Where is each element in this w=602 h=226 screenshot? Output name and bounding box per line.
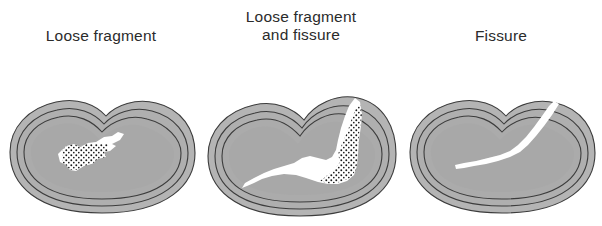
bone-cross-section-loose-fragment <box>0 74 202 222</box>
panel-fissure: Fissure <box>400 0 602 226</box>
bone-cross-section-loose-fragment-and-fissure <box>200 74 402 222</box>
panel-caption-loose-fragment: Loose fragment <box>0 27 202 45</box>
panel-loose-fragment: Loose fragment <box>0 0 202 226</box>
bone-cross-section-fissure <box>400 74 602 222</box>
osteochondral-lesion-figure: Loose fragment <box>0 0 602 226</box>
panel-caption-fissure: Fissure <box>400 27 602 45</box>
panel-loose-fragment-and-fissure: Loose fragment and fissure <box>200 0 402 226</box>
panel-caption-loose-fragment-and-fissure: Loose fragment and fissure <box>200 8 402 44</box>
